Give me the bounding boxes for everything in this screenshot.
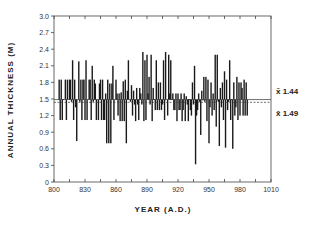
- x-tick-label: 890: [141, 186, 153, 193]
- bar: [203, 77, 204, 100]
- bar: [244, 100, 245, 116]
- y-tick-label: 0.9: [39, 129, 49, 136]
- bar: [83, 80, 84, 100]
- y-tick-label: 2.1: [39, 62, 49, 69]
- x-tick-label: 950: [203, 186, 215, 193]
- bar: [224, 71, 225, 99]
- bar: [177, 93, 178, 99]
- y-tick-label: 1.2: [39, 112, 49, 119]
- bar: [170, 60, 171, 99]
- bar: [201, 91, 202, 100]
- y-axis: 00.30.60.91.21.51.82.12.42.73.0: [39, 13, 54, 186]
- x-tick-label: 980: [234, 186, 246, 193]
- bar: [192, 82, 193, 99]
- bar: [146, 55, 147, 100]
- bar: [76, 100, 77, 142]
- bar: [174, 100, 175, 111]
- bar: [78, 61, 79, 99]
- bar: [67, 80, 68, 100]
- mean-label-1-44: x̄ 1.44: [276, 87, 299, 96]
- x-tick-label: 860: [110, 186, 122, 193]
- bar: [143, 100, 144, 122]
- x-tick-label: 800: [48, 186, 60, 193]
- bar: [210, 82, 211, 99]
- y-tick-label: 0: [45, 179, 49, 186]
- bar: [182, 100, 183, 111]
- bar: [126, 100, 127, 144]
- y-tick-label: 1.8: [39, 79, 49, 86]
- bar: [110, 100, 111, 144]
- bar: [118, 93, 119, 99]
- bar: [233, 82, 234, 99]
- bar: [132, 100, 133, 116]
- bar: [135, 100, 136, 122]
- bar: [221, 100, 222, 108]
- bar: [222, 82, 223, 99]
- bar: [205, 77, 206, 100]
- bar: [220, 88, 221, 100]
- x-tick-label: 830: [79, 186, 91, 193]
- bar: [226, 80, 227, 100]
- bar: [232, 100, 233, 149]
- bar: [239, 100, 240, 116]
- bar: [142, 52, 143, 100]
- bar: [215, 55, 216, 100]
- bar: [155, 100, 156, 111]
- bar: [235, 100, 236, 108]
- bar: [236, 77, 237, 100]
- bar: [58, 80, 59, 100]
- bar: [165, 52, 166, 100]
- bar: [209, 100, 210, 108]
- bar: [175, 93, 176, 99]
- bar: [84, 100, 85, 120]
- bar: [95, 84, 96, 100]
- bar: [106, 100, 107, 144]
- y-tick-label: 2.4: [39, 46, 49, 53]
- bar: [151, 100, 152, 122]
- bar: [156, 60, 157, 99]
- bar: [247, 100, 248, 116]
- bar: [144, 60, 145, 99]
- bar: [100, 80, 101, 100]
- bar: [150, 55, 151, 100]
- bar: [85, 60, 86, 99]
- y-tick-label: 3.0: [39, 13, 49, 20]
- bar: [167, 100, 168, 116]
- bar: [124, 100, 125, 122]
- bar: [219, 100, 220, 146]
- bar: [211, 100, 212, 116]
- bar: [197, 100, 198, 111]
- bar: [133, 91, 134, 100]
- x-tick-label: 920: [172, 186, 184, 193]
- bar: [153, 88, 154, 100]
- bar: [105, 93, 106, 99]
- bar: [213, 100, 214, 111]
- bar: [60, 100, 61, 120]
- bar: [185, 100, 186, 122]
- bars: [58, 52, 247, 164]
- bar: [136, 88, 137, 100]
- bar: [207, 80, 208, 100]
- bar: [194, 66, 195, 100]
- y-tick-label: 0.6: [39, 145, 49, 152]
- bar: [200, 100, 201, 135]
- bar: [206, 100, 207, 122]
- bar: [65, 80, 66, 100]
- bar: [119, 100, 120, 122]
- bar: [107, 80, 108, 100]
- bar: [109, 84, 110, 100]
- bar: [193, 100, 194, 105]
- bar: [92, 66, 93, 100]
- bar: [172, 93, 173, 99]
- bar: [108, 100, 109, 144]
- x-axis: 8008308608909209509801010: [48, 16, 279, 193]
- bar: [163, 60, 164, 99]
- bar: [70, 80, 71, 100]
- bar: [61, 80, 62, 100]
- bar: [184, 93, 185, 99]
- bar: [246, 82, 247, 99]
- bar: [191, 100, 192, 116]
- bar-chart: 00.30.60.91.21.51.82.12.42.73.0 80083086…: [0, 0, 317, 226]
- bar: [238, 82, 239, 99]
- y-tick-label: 1.5: [39, 96, 49, 103]
